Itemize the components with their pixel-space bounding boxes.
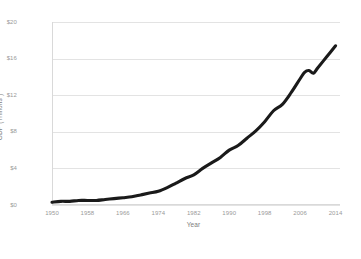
x-axis-tick-label: 1950: [37, 209, 67, 217]
plot-area: [52, 22, 340, 205]
x-axis-tick-label: 1966: [108, 209, 138, 217]
x-axis-tick-label: 1982: [179, 209, 209, 217]
x-axis-tick-label: 1990: [214, 209, 244, 217]
x-axis-tick-label: 1974: [143, 209, 173, 217]
x-axis-tick-label: 1998: [250, 209, 280, 217]
x-axis-tick-label: 2006: [285, 209, 315, 217]
y-axis-tick-label: $4: [0, 165, 17, 172]
x-axis-title: Year: [0, 221, 361, 228]
y-axis-title: GDP (Trillions ): [0, 72, 3, 162]
x-axis-tick-label: 2014: [321, 209, 351, 217]
x-axis-title-text: Year: [187, 221, 201, 228]
y-axis-tick-label: $0: [0, 202, 17, 209]
series-layer: [52, 22, 340, 205]
x-axis-tick-label: 1958: [72, 209, 102, 217]
gdp-line-chart: $0$4$8$12$16$20 195019581966197419821990…: [0, 0, 361, 259]
gdp-line-series: [52, 46, 336, 202]
y-axis-tick-label: $16: [0, 55, 17, 62]
y-axis-tick-label: $20: [0, 19, 17, 26]
gridline-y: [52, 205, 340, 206]
